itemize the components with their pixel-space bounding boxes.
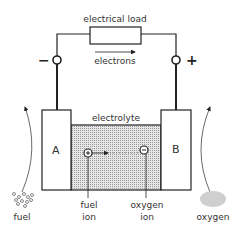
oxygen-cloud-icon (200, 191, 226, 207)
fuel-flow-arrow (22, 107, 32, 192)
oxygen-flow-arrow (201, 107, 210, 192)
oxygen-ion-label-2: ion (140, 212, 154, 222)
negative-sign: − (38, 53, 50, 67)
fuel-ion-label-2: ion (82, 212, 96, 222)
oxygen-label: oxygen (197, 212, 230, 222)
fuel-ion-label-1: fuel (81, 200, 98, 210)
fuel-particles-icon (13, 193, 34, 208)
electrode-b-label: B (172, 143, 180, 156)
electrical-load-resistor (90, 27, 141, 44)
electrolyte (71, 125, 161, 190)
electrode-a-label: A (52, 144, 60, 157)
oxygen-ion-label-1: oxygen (131, 200, 164, 210)
electrical-load-label: electrical load (83, 14, 146, 24)
fuel-label: fuel (14, 212, 31, 222)
positive-terminal-icon (172, 56, 180, 64)
positive-sign: + (186, 53, 198, 67)
electrolyte-label: electrolyte (92, 113, 140, 123)
negative-terminal-icon (53, 56, 61, 64)
electrons-label: electrons (94, 56, 135, 66)
